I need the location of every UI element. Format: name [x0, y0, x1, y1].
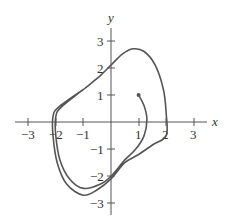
- x-tick-label: −1: [76, 127, 90, 142]
- chart: −3 −2 −1 1 2 3 3 2 1 −1 −2 −3 x y: [0, 0, 232, 222]
- x-tick-label: −3: [21, 127, 35, 142]
- y-tick-label: −3: [90, 196, 104, 211]
- x-axis-label: x: [211, 114, 218, 129]
- y-axis-label: y: [106, 10, 114, 25]
- start-point: [137, 93, 141, 97]
- x-tick-label: 3: [190, 127, 197, 142]
- y-tick-label: −1: [90, 142, 104, 157]
- x-tick-label: 1: [135, 127, 142, 142]
- y-tick-label: 3: [97, 34, 104, 49]
- y-tick-label: 1: [97, 88, 104, 103]
- y-tick-label: −2: [90, 169, 104, 184]
